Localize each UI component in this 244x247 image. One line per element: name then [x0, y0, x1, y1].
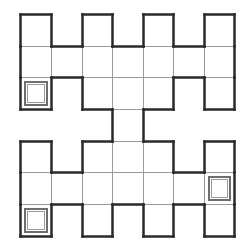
puzzle-board: [0, 0, 244, 247]
region-outline: [0, 0, 244, 247]
